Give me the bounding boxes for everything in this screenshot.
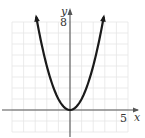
curve-arrow-left-icon: [34, 15, 40, 22]
axes: [2, 8, 139, 137]
x-tick-label-5: 5: [120, 112, 127, 125]
y-axis-label: y: [60, 5, 68, 18]
parabola-chart: 5 8 x y: [0, 0, 145, 138]
x-axis-label: x: [134, 111, 141, 124]
curve-arrow-right-icon: [100, 15, 106, 22]
y-axis-arrow-icon: [68, 8, 73, 15]
